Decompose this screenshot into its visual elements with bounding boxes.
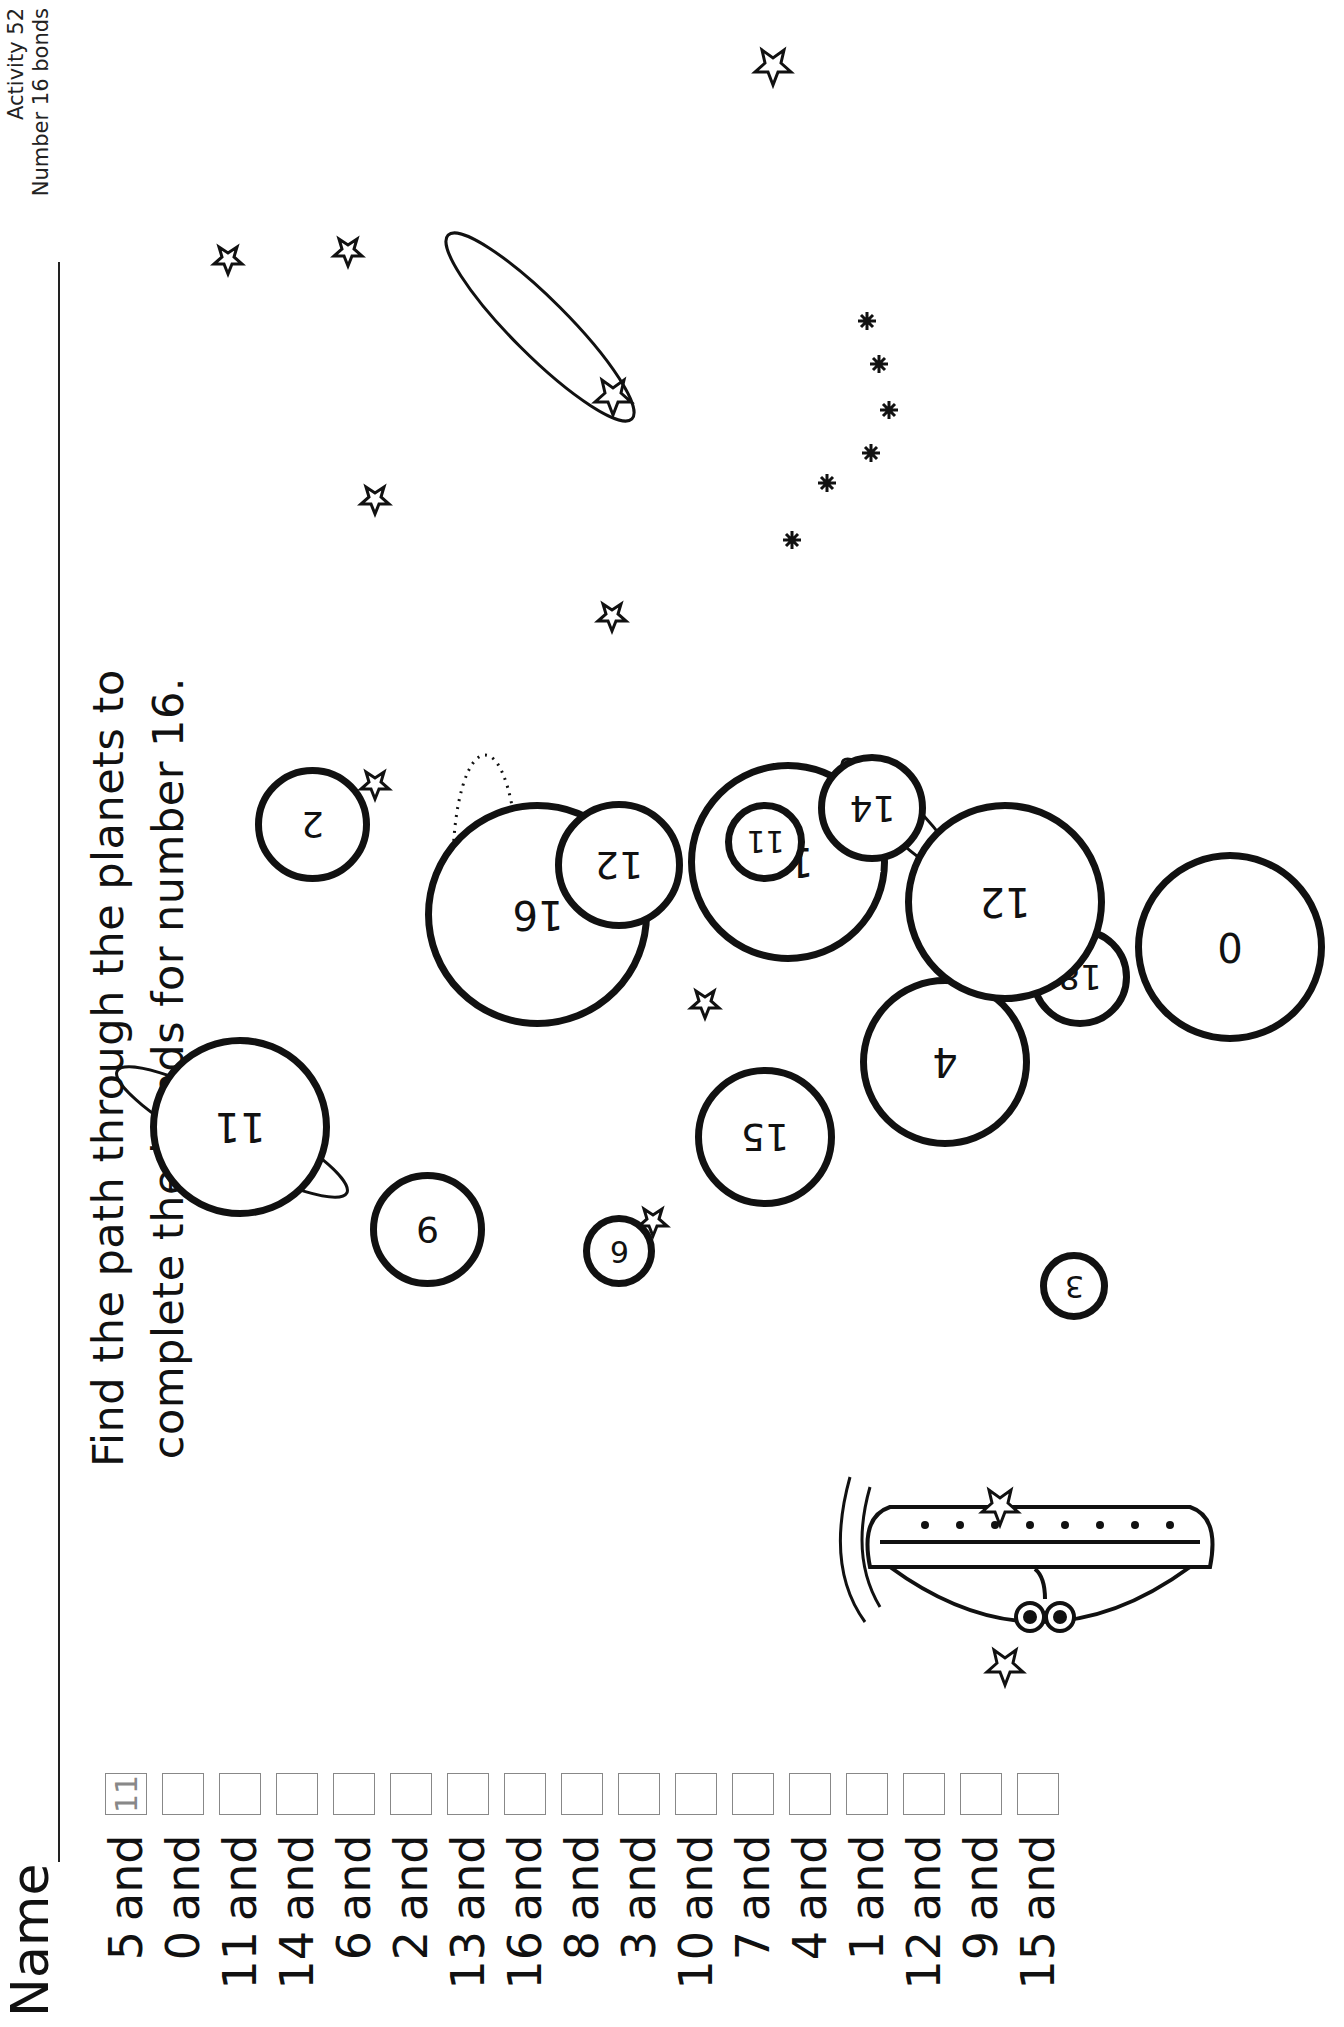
planet[interactable]: 0 [1135,852,1325,1042]
planet[interactable]: 3 [1040,1252,1108,1320]
planet[interactable]: 15 [695,1067,835,1207]
planet-spacer-6 [405,811,406,812]
planet-spacer-19 [860,864,861,865]
planet-spacer-9 [880,871,881,872]
planet[interactable]: 6 [583,1215,655,1287]
planet[interactable]: 2 [255,767,370,882]
planet-spacer-16 [862,866,863,867]
planet-spacer [395,946,396,947]
planet-spacer-20 [858,866,859,867]
planet-map: 11 9 6 16 2 15 4 3 18 10 12 0 11 14 12 [0,0,1344,2027]
planet-spacer-5 [355,811,356,812]
planet[interactable]: 4 [860,977,1030,1147]
planet-dotted-ring[interactable]: 12 [555,801,683,929]
planet[interactable]: 9 [370,1172,485,1287]
planet-start[interactable]: 11 [150,1037,330,1217]
planet-spacer-4 [255,771,256,772]
worksheet-page: Activity 52 Number 16 bonds Name Find th… [0,0,1344,2027]
planet-spacer-14 [860,871,861,872]
planet[interactable]: 11 [725,802,805,882]
planet-spacer-8 [860,811,861,812]
planet-spacer-3 [860,886,861,887]
